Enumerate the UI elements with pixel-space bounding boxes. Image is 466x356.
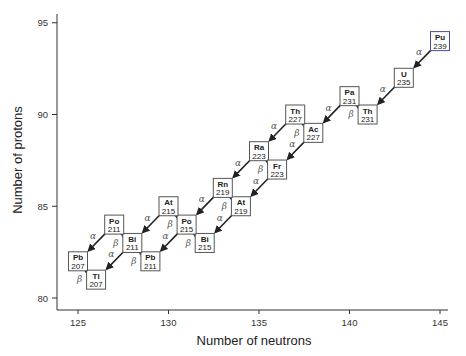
alpha-label: α: [380, 84, 386, 94]
beta-label: β: [348, 109, 354, 119]
x-tick-label: 140: [342, 317, 358, 328]
mass-number: 215: [180, 225, 194, 234]
beta-label: β: [76, 274, 82, 284]
mass-number: 231: [343, 97, 357, 106]
alpha-label: α: [108, 249, 114, 259]
alpha-label: α: [271, 121, 277, 131]
alpha-label: α: [199, 194, 205, 204]
mass-number: 219: [234, 207, 248, 216]
beta-label: β: [130, 256, 136, 266]
beta-label: β: [257, 164, 263, 174]
nuclide-ac-227: Ac227: [304, 123, 323, 142]
alpha-label: α: [90, 231, 96, 241]
mass-number: 211: [126, 243, 139, 252]
mass-number: 215: [162, 207, 176, 216]
mass-number: 223: [252, 152, 266, 161]
nuclide-bi-211: Bi211: [123, 233, 142, 252]
x-tick-label: 125: [70, 317, 86, 328]
decay-chain-chart: 125130135140145 80859095 Number of neutr…: [0, 0, 466, 356]
alpha-decay-arrow: α: [143, 213, 160, 233]
alpha-decay-arrow: α: [107, 249, 124, 269]
x-axis-title: Number of neutrons: [197, 333, 312, 348]
x-tick-label: 145: [432, 317, 448, 328]
y-ticks: 80859095: [37, 17, 57, 303]
nuclide-pb-207: Pb207: [69, 252, 88, 271]
beta-label: β: [112, 238, 118, 248]
alpha-label: α: [325, 103, 331, 113]
mass-number: 231: [361, 115, 375, 124]
alpha-decay-arrow: α: [324, 103, 341, 123]
mass-number: 207: [71, 262, 85, 271]
nuclide-boxes: Pu239U235Th231Pa231Ac227Th227Ra223Fr223A…: [69, 32, 450, 290]
nuclide-tl-207: Tl207: [87, 270, 106, 289]
nuclide-at-219: At219: [231, 197, 250, 216]
beta-label: β: [293, 128, 299, 138]
nuclide-pu-239: Pu239: [431, 32, 450, 51]
alpha-decay-arrow: α: [89, 231, 106, 251]
mass-number: 219: [216, 188, 230, 197]
alpha-decay-arrow: α: [251, 176, 268, 196]
nuclide-u-235: U235: [394, 68, 413, 87]
nuclide-ra-223: Ra223: [250, 142, 269, 161]
nuclide-pb-211: Pb211: [141, 252, 160, 271]
x-tick-label: 135: [251, 317, 267, 328]
y-axis-title: Number of protons: [10, 106, 25, 214]
nuclide-rn-219: Rn219: [213, 178, 232, 197]
nuclide-po-215: Po215: [177, 215, 196, 234]
mass-number: 211: [108, 225, 121, 234]
alpha-decay-arrow: α: [161, 231, 178, 251]
alpha-label: α: [163, 231, 169, 241]
alpha-decay-arrow: α: [288, 139, 305, 159]
beta-label: β: [221, 201, 227, 211]
alpha-label: α: [289, 139, 295, 149]
mass-number: 239: [433, 42, 447, 51]
nuclide-th-227: Th227: [286, 105, 305, 124]
mass-number: 227: [289, 115, 303, 124]
alpha-decay-arrow: α: [270, 121, 287, 141]
alpha-label: α: [253, 176, 259, 186]
alpha-decay-arrow: α: [378, 84, 395, 104]
nuclide-bi-215: Bi215: [195, 233, 214, 252]
x-ticks: 125130135140145: [70, 310, 448, 328]
nuclide-po-211: Po211: [105, 215, 124, 234]
y-tick-label: 95: [37, 17, 48, 28]
alpha-label: α: [235, 158, 241, 168]
nuclide-th-231: Th231: [358, 105, 377, 124]
alpha-decay-arrow: α: [215, 213, 232, 233]
alpha-label: α: [144, 213, 150, 223]
beta-label: β: [185, 238, 191, 248]
beta-label: β: [167, 219, 173, 229]
nuclide-pa-231: Pa231: [340, 87, 359, 106]
mass-number: 235: [397, 78, 411, 87]
mass-number: 215: [198, 243, 212, 252]
y-tick-label: 85: [37, 201, 48, 212]
mass-number: 211: [144, 262, 157, 271]
mass-number: 207: [89, 280, 103, 289]
alpha-label: α: [217, 213, 223, 223]
y-tick-label: 90: [37, 109, 48, 120]
mass-number: 223: [270, 170, 284, 179]
alpha-decay-arrow: α: [414, 47, 431, 67]
y-tick-label: 80: [37, 293, 48, 304]
mass-number: 227: [307, 133, 321, 142]
alpha-decay-arrow: α: [233, 158, 250, 178]
nuclide-at-215: At215: [159, 197, 178, 216]
alpha-decay-arrow: α: [197, 194, 214, 214]
alpha-label: α: [416, 47, 422, 57]
nuclide-fr-223: Fr223: [268, 160, 287, 179]
x-tick-label: 130: [161, 317, 177, 328]
